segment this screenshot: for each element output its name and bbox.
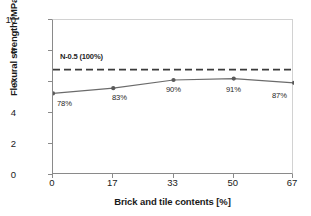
x-tick-label-17: 17	[92, 178, 132, 188]
x-tick-label-50: 50	[213, 178, 253, 188]
x-tick-label-67: 67	[272, 178, 311, 188]
data-point-marker	[111, 86, 115, 90]
y-tick-label-4: 4	[0, 108, 16, 118]
reference-line-label: N-0.5 (100%)	[60, 53, 103, 61]
plot-svg	[53, 20, 294, 175]
point-label-67: 87%	[272, 92, 287, 100]
point-label-50: 91%	[226, 86, 241, 94]
y-tick-label-8: 8	[0, 46, 16, 56]
x-tick-label-0: 0	[32, 178, 72, 188]
point-label-17: 83%	[112, 94, 127, 102]
flexural-strength-line-chart: Flexural strength [MPa] 10 8 6 4 2 0 N-0…	[0, 0, 311, 216]
x-axis-title: Brick and tile contents [%]	[52, 196, 293, 207]
y-tick-label-6: 6	[0, 77, 16, 87]
x-tick-label-33: 33	[153, 178, 193, 188]
y-tick-label-2: 2	[0, 139, 16, 149]
data-point-marker	[292, 81, 294, 85]
y-tick-label-10: 10	[0, 15, 16, 25]
point-label-33: 90%	[166, 86, 181, 94]
y-tick-label-0: 0	[0, 170, 16, 180]
plot-area	[52, 19, 293, 174]
data-point-marker	[232, 76, 236, 80]
data-point-marker	[53, 91, 55, 95]
data-point-marker	[171, 78, 175, 82]
point-label-0: 78%	[57, 100, 72, 108]
